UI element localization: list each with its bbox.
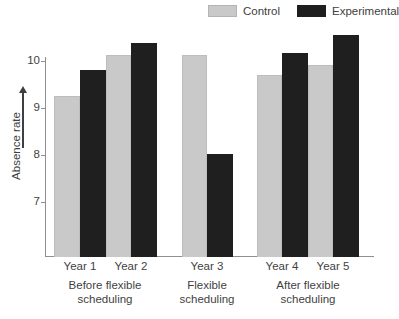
group-label-after: After flexible scheduling xyxy=(248,278,368,306)
group-label-after-line1: After flexible xyxy=(248,278,368,292)
x-label-year2: Year 2 xyxy=(101,260,161,272)
y-tick-label-8: 8 xyxy=(20,148,40,160)
y-axis-title: Absence rate xyxy=(10,106,22,186)
bar-year2-control xyxy=(106,55,131,257)
x-label-year5: Year 5 xyxy=(303,260,363,272)
bar-year3-control xyxy=(182,55,207,257)
bar-year5-experimental xyxy=(333,35,359,257)
bar-year2-experimental xyxy=(131,43,157,257)
bar-year1-experimental xyxy=(80,70,106,257)
y-tick-label-10: 10 xyxy=(20,54,40,66)
y-tick-8 xyxy=(41,155,46,156)
group-label-after-line2: scheduling xyxy=(248,292,368,306)
bar-year1-control xyxy=(54,96,80,257)
y-axis-line xyxy=(45,57,46,257)
y-tick-label-7: 7 xyxy=(20,195,40,207)
bar-year4-control xyxy=(257,75,282,257)
y-tick-9 xyxy=(41,108,46,109)
up-arrow-icon xyxy=(22,92,24,148)
bar-year4-experimental xyxy=(282,53,308,257)
x-label-year3: Year 3 xyxy=(177,260,237,272)
bar-year5-control xyxy=(308,65,333,257)
y-tick-7 xyxy=(41,202,46,203)
y-tick-10 xyxy=(41,61,46,62)
bar-year3-experimental xyxy=(207,154,233,257)
